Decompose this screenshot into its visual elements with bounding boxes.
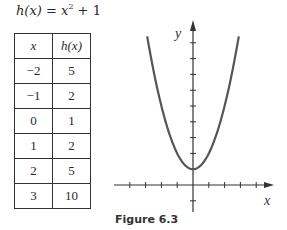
y-axis-label: y bbox=[173, 26, 182, 41]
x-axis-label: x bbox=[263, 193, 271, 208]
y-axis-arrow-icon bbox=[190, 20, 196, 31]
x-axis-arrow-icon bbox=[264, 182, 274, 188]
parabola-plot: y x bbox=[0, 0, 287, 230]
figure-caption: Figure 6.3 bbox=[115, 213, 178, 226]
axes bbox=[114, 26, 268, 212]
